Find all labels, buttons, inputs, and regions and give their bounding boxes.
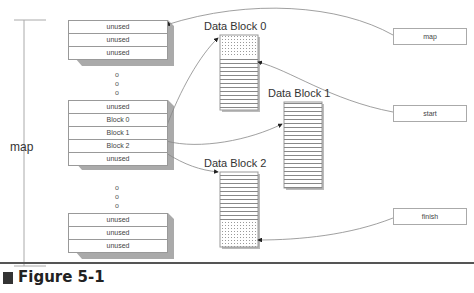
map-cell: unused bbox=[69, 240, 167, 252]
data-block-1-body bbox=[284, 102, 322, 188]
map-cell: unused bbox=[69, 34, 167, 47]
map-cell: unused bbox=[69, 214, 167, 227]
map-stack-top: unused unused unused bbox=[68, 20, 168, 60]
figure-square-icon bbox=[3, 272, 13, 284]
ellipsis: ooo bbox=[112, 70, 122, 97]
data-block-0-body bbox=[220, 35, 258, 110]
data-block-2-body bbox=[220, 172, 258, 247]
map-cell: unused bbox=[69, 47, 167, 59]
map-cell-block-0: Block 0 bbox=[69, 114, 167, 127]
pointer-map: map bbox=[393, 28, 467, 45]
map-cell: unused bbox=[69, 101, 167, 114]
map-stack-bottom: unused unused unused bbox=[68, 213, 168, 253]
map-cell: unused bbox=[69, 153, 167, 165]
map-stack-middle: unused Block 0 Block 1 Block 2 unused bbox=[68, 100, 168, 166]
bracket-label: map bbox=[10, 140, 33, 154]
pointer-start: start bbox=[393, 105, 467, 122]
figure-caption: Figure 5-1 bbox=[18, 268, 105, 286]
ellipsis: ooo bbox=[112, 183, 122, 210]
figure-rule bbox=[0, 262, 474, 264]
pointer-arrows bbox=[166, 8, 393, 240]
data-block-1-title: Data Block 1 bbox=[268, 87, 330, 99]
map-cell-block-2: Block 2 bbox=[69, 140, 167, 153]
data-block-2-title: Data Block 2 bbox=[204, 157, 266, 169]
data-block-0-title: Data Block 0 bbox=[204, 20, 266, 32]
map-cell: unused bbox=[69, 21, 167, 34]
map-cell: unused bbox=[69, 227, 167, 240]
pointer-finish: finish bbox=[393, 208, 467, 225]
map-cell-block-1: Block 1 bbox=[69, 127, 167, 140]
